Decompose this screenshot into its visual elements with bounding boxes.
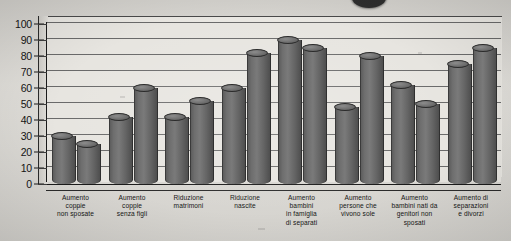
category-label-line: matrimoni (157, 202, 221, 210)
category-label-line: di separati (270, 219, 334, 227)
category-label-line: bambini nati da (383, 202, 447, 210)
bar-body (473, 48, 497, 184)
bar (247, 53, 269, 184)
category-label: Aumentopersone chevivono sole (326, 194, 390, 219)
bar-body (77, 144, 101, 184)
category-label-line: separazioni (439, 202, 503, 210)
category-label-line: non sposate (44, 210, 108, 218)
scan-speck (120, 96, 125, 98)
category-label-line: bambini (270, 202, 334, 210)
category-label-line: in famiglia (270, 210, 334, 218)
bar-body (247, 53, 271, 184)
bar-cap-ellipse (108, 113, 130, 121)
bar (278, 40, 300, 184)
axis-depth-tick (38, 24, 47, 25)
bar-body (335, 107, 359, 184)
bar-body (52, 136, 76, 184)
bar (448, 64, 470, 184)
category-label-line: Aumento (100, 194, 164, 202)
category-label-line: e divorzi (439, 210, 503, 218)
bar (190, 101, 212, 184)
category-label-line: Aumento di (439, 194, 503, 202)
bar (303, 48, 325, 184)
category-label-line: persone che (326, 202, 390, 210)
category-label: Riduzionenascite (213, 194, 277, 210)
category-label-line: Riduzione (213, 194, 277, 202)
category-label-line: Aumento (44, 194, 108, 202)
axis-depth-tick (38, 104, 47, 105)
bar-cap-ellipse (302, 44, 324, 52)
category-label: Aumentobambini nati dagenitori nonsposat… (383, 194, 447, 227)
bar-cap-ellipse (472, 44, 494, 52)
bar-group-container (0, 22, 511, 192)
category-label-line: Aumento (326, 194, 390, 202)
scan-speck (76, 206, 81, 208)
category-label-line: Aumento (383, 194, 447, 202)
bar (473, 48, 495, 184)
bar-body (109, 117, 133, 184)
bar-body (134, 88, 158, 184)
axis-depth-tick (38, 152, 47, 153)
bar-cap-ellipse (133, 84, 155, 92)
bar-cap-ellipse (164, 113, 186, 121)
bar (109, 117, 131, 184)
category-label: Aumentocoppiesenza figli (100, 194, 164, 219)
bar-cap-ellipse (415, 100, 437, 108)
bar-cap-ellipse (76, 140, 98, 148)
bar-cap-ellipse (221, 84, 243, 92)
axis-depth-tick (38, 136, 47, 137)
category-label-line: Riduzione (157, 194, 221, 202)
axis-depth-tick (38, 184, 47, 185)
bar-body (165, 117, 189, 184)
category-label-line: Aumento (270, 194, 334, 202)
category-label-line: coppie (100, 202, 164, 210)
bar (134, 88, 156, 184)
axis-depth-tick (38, 40, 47, 41)
category-labels: Aumentocoppienon sposateAumentocoppiesen… (0, 194, 511, 241)
bar (360, 56, 382, 184)
category-label-line: sposati (383, 219, 447, 227)
bar (77, 144, 99, 184)
bar-body (360, 56, 384, 184)
scan-speck (418, 52, 422, 54)
category-label-line: genitori non (383, 210, 447, 218)
axis-depth-tick (38, 88, 47, 89)
bar-cap-ellipse (51, 132, 73, 140)
bar (52, 136, 74, 184)
category-label-line: nascite (213, 202, 277, 210)
bar (335, 107, 357, 184)
bar-body (303, 48, 327, 184)
scan-speck (258, 228, 265, 230)
bar-cap-ellipse (359, 52, 381, 60)
category-label-line: senza figli (100, 210, 164, 218)
category-label-line: vivono sole (326, 210, 390, 218)
bar-body (391, 85, 415, 184)
bar-cap-ellipse (277, 36, 299, 44)
axis-depth-tick (38, 72, 47, 73)
bar-body (416, 104, 440, 184)
bar (165, 117, 187, 184)
bar-body (448, 64, 472, 184)
axis-depth-tick (38, 120, 47, 121)
bar-cap-ellipse (189, 97, 211, 105)
bar (222, 88, 244, 184)
bar-body (222, 88, 246, 184)
axis-depth-tick (38, 168, 47, 169)
axis-depth-tick (38, 56, 47, 57)
bar (416, 104, 438, 184)
bar-cap-ellipse (334, 103, 356, 111)
bar-cap-ellipse (447, 60, 469, 68)
bar-body (190, 101, 214, 184)
bar-body (278, 40, 302, 184)
category-label: Aumento diseparazionie divorzi (439, 194, 503, 219)
category-label: Aumentobambiniin famigliadi separati (270, 194, 334, 227)
bar (391, 85, 413, 184)
bar-cap-ellipse (246, 49, 268, 57)
bar-cap-ellipse (390, 81, 412, 89)
category-label: Riduzionematrimoni (157, 194, 221, 210)
